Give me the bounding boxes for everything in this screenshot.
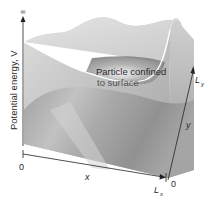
infinity-label: ∞ xyxy=(21,8,26,15)
potential-box-diagram: ∞ Potential energy, V 0 x L x 0 y L y Pa… xyxy=(0,0,215,200)
y-depth-label: y xyxy=(185,120,191,130)
y-origin-label: 0 xyxy=(171,179,176,189)
v-axis-arrow-icon xyxy=(21,16,26,22)
ly-sub: y xyxy=(200,81,205,87)
lx-sub: x xyxy=(159,191,164,197)
origin-label: 0 xyxy=(19,162,24,172)
annotation-line2: to surface xyxy=(97,77,139,88)
lx-label: L xyxy=(154,185,159,195)
annotation-line1: Particle confined xyxy=(96,66,166,77)
y-axis-label: Potential energy, V xyxy=(8,50,19,130)
ly-label: L xyxy=(195,75,200,85)
x-axis-label: x xyxy=(84,172,90,182)
